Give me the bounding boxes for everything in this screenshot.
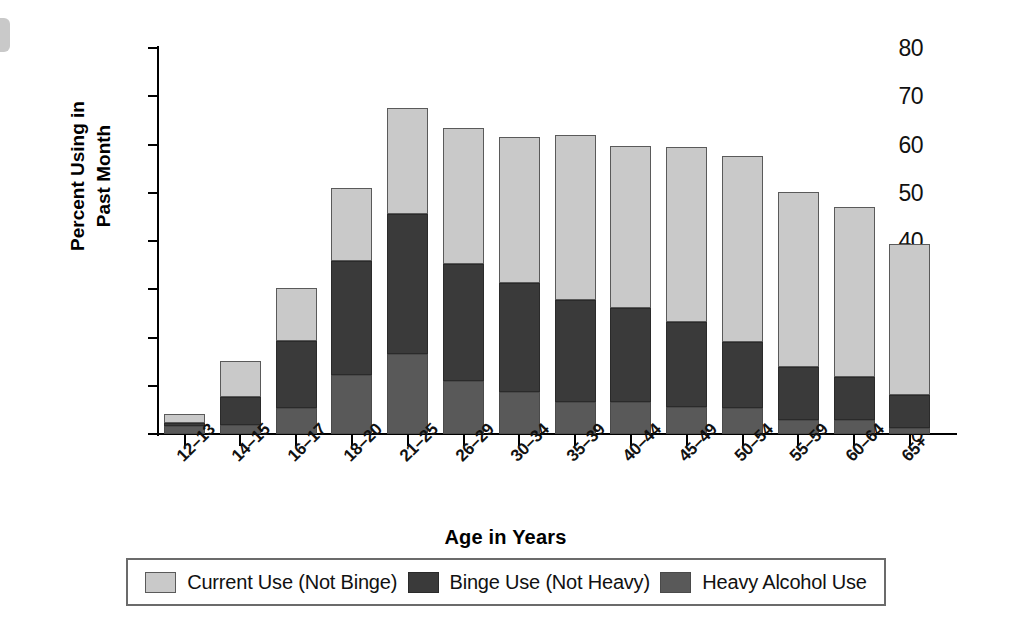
bar-segment-binge — [220, 397, 261, 425]
bar-segment-binge — [331, 261, 372, 374]
plot-area: 01020304050607080 — [157, 48, 937, 434]
x-axis-title: Age in Years — [0, 526, 1011, 549]
bar-segment-heavy — [387, 354, 428, 434]
bar-segment-current — [387, 108, 428, 213]
bar-segment-current — [220, 361, 261, 397]
bar-segment-current — [778, 192, 819, 368]
bar-segment-binge — [778, 367, 819, 420]
legend-swatch-binge-icon — [408, 572, 439, 593]
y-axis-title: Percent Using inPast Month — [65, 101, 117, 251]
bar-segment-current — [834, 207, 875, 376]
bar-segment-binge — [666, 322, 707, 407]
bar-18-20[interactable] — [331, 48, 372, 434]
legend-swatch-heavy-icon — [660, 572, 691, 593]
bar-30-34[interactable] — [499, 48, 540, 434]
bar-65+[interactable] — [889, 48, 930, 434]
bar-segment-heavy — [889, 428, 930, 434]
bar-segment-current — [610, 146, 651, 307]
legend-label: Binge Use (Not Heavy) — [450, 571, 650, 594]
bar-segment-current — [443, 128, 484, 265]
bar-45-49[interactable] — [666, 48, 707, 434]
bar-segment-current — [164, 414, 205, 423]
bar-segment-binge — [276, 341, 317, 408]
bar-segment-binge — [443, 264, 484, 381]
y-axis-tick — [148, 433, 157, 435]
bar-segment-current — [276, 288, 317, 341]
chart-legend: Current Use (Not Binge)Binge Use (Not He… — [126, 558, 886, 606]
bar-segment-binge — [889, 395, 930, 428]
bar-segment-binge — [722, 342, 763, 408]
legend-label: Heavy Alcohol Use — [702, 571, 866, 594]
legend-item-current[interactable]: Current Use (Not Binge) — [145, 571, 397, 594]
y-axis-tick — [148, 95, 157, 97]
stacked-bar-chart: Percent Using inPast Month 0102030405060… — [0, 0, 1011, 635]
y-axis-tick — [148, 240, 157, 242]
bar-segment-current — [722, 156, 763, 342]
y-axis-tick — [148, 288, 157, 290]
bar-segment-binge — [555, 300, 596, 402]
legend-item-heavy[interactable]: Heavy Alcohol Use — [660, 571, 866, 594]
bar-60-64[interactable] — [834, 48, 875, 434]
bar-21-25[interactable] — [387, 48, 428, 434]
bar-segment-current — [889, 244, 930, 395]
bar-16-17[interactable] — [276, 48, 317, 434]
bar-12-13[interactable] — [164, 48, 205, 434]
bar-segment-binge — [610, 308, 651, 403]
legend-swatch-current-icon — [145, 572, 176, 593]
y-axis-tick — [148, 144, 157, 146]
bar-segment-current — [499, 137, 540, 283]
bar-segment-current — [331, 188, 372, 261]
bar-14-15[interactable] — [220, 48, 261, 434]
y-axis-title-line: Percent Using in — [65, 101, 91, 251]
y-axis-tick — [148, 47, 157, 49]
bar-35-39[interactable] — [555, 48, 596, 434]
bar-segment-current — [555, 135, 596, 300]
bar-segment-binge — [834, 377, 875, 420]
legend-label: Current Use (Not Binge) — [187, 571, 397, 594]
y-axis-tick — [148, 337, 157, 339]
bar-40-44[interactable] — [610, 48, 651, 434]
y-axis-title-line: Past Month — [91, 101, 117, 251]
bar-segment-binge — [387, 214, 428, 355]
x-axis-tick-label: 65+ — [898, 432, 932, 466]
bar-segment-binge — [499, 283, 540, 392]
bar-55-59[interactable] — [778, 48, 819, 434]
y-axis-tick — [148, 385, 157, 387]
bar-segment-current — [666, 147, 707, 322]
y-axis-tick — [148, 192, 157, 194]
bar-26-29[interactable] — [443, 48, 484, 434]
bar-50-54[interactable] — [722, 48, 763, 434]
legend-item-binge[interactable]: Binge Use (Not Heavy) — [408, 571, 650, 594]
